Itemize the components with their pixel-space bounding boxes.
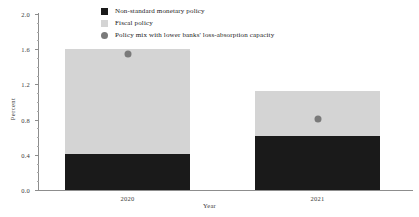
y-tick-label: 0.8	[21, 116, 30, 123]
bar-segment-monetary	[255, 136, 380, 190]
x-axis-title: Year	[0, 202, 419, 209]
legend-item[interactable]: Policy mix with lower banks' loss-absorp…	[101, 29, 274, 41]
y-tick-major: 0.8	[35, 120, 39, 121]
bar-segment-fiscal	[255, 91, 380, 136]
chart-container: Percent 0.00.40.81.21.62.0 20202021 Year…	[0, 0, 419, 217]
y-tick-major: 2.0	[35, 14, 39, 15]
chart-legend: Non-standard monetary policyFiscal polic…	[101, 5, 274, 41]
y-tick-major: 1.2	[35, 84, 39, 85]
bar-segment-fiscal	[65, 49, 190, 154]
legend-square-icon	[101, 20, 108, 27]
y-tick-major: 0.4	[35, 155, 39, 156]
legend-item-label: Fiscal policy	[115, 19, 153, 27]
bar-segment-monetary	[65, 154, 190, 190]
y-tick-major: 0.0	[35, 190, 39, 191]
y-tick-label: 0.0	[21, 187, 30, 194]
x-tick-label: 2020	[121, 195, 135, 202]
y-tick-minor	[37, 76, 39, 77]
y-tick-minor	[37, 146, 39, 147]
legend-item[interactable]: Fiscal policy	[101, 17, 274, 29]
y-tick-minor	[37, 137, 39, 138]
y-tick-label: 1.6	[21, 46, 30, 53]
y-tick-major: 1.6	[35, 49, 39, 50]
x-axis-line	[38, 190, 413, 191]
y-tick-label: 2.0	[21, 11, 30, 18]
policy-mix-marker	[124, 51, 131, 58]
y-tick-minor	[37, 32, 39, 33]
y-tick-minor	[37, 181, 39, 182]
legend-item-label: Non-standard monetary policy	[115, 7, 205, 15]
y-tick-label: 0.4	[21, 151, 30, 158]
y-tick-minor	[37, 58, 39, 59]
y-tick-minor	[37, 67, 39, 68]
y-axis-title: Percent	[9, 97, 16, 119]
y-tick-minor	[37, 23, 39, 24]
y-tick-label: 1.2	[21, 81, 30, 88]
y-tick-minor	[37, 128, 39, 129]
legend-circle-icon	[101, 32, 108, 39]
y-tick-minor	[37, 102, 39, 103]
policy-mix-marker	[314, 115, 321, 122]
x-tick-label: 2021	[311, 195, 325, 202]
y-tick-minor	[37, 111, 39, 112]
y-tick-minor	[37, 164, 39, 165]
legend-square-icon	[101, 8, 108, 15]
y-tick-minor	[37, 40, 39, 41]
legend-item-label: Policy mix with lower banks' loss-absorp…	[115, 31, 274, 39]
legend-item[interactable]: Non-standard monetary policy	[101, 5, 274, 17]
y-tick-minor	[37, 93, 39, 94]
y-tick-minor	[37, 172, 39, 173]
